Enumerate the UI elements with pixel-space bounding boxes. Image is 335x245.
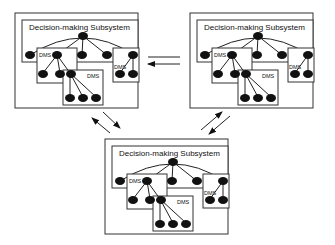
panel-bottom: Decision-making Subsystem DMS DMS DMS bbox=[105, 139, 229, 234]
dms-label: DMS bbox=[289, 64, 302, 70]
panel-top-left: Decision-making Subsystem DMS DMS DMS bbox=[15, 13, 139, 108]
panel-top-right: Decision-making Subsystem DMS DMS DMS bbox=[190, 13, 314, 108]
dms-label: DMS bbox=[177, 199, 190, 205]
dms-label: DMS bbox=[262, 73, 275, 79]
arrow-down-right-icon bbox=[103, 112, 120, 128]
panel-title: Decision-making Subsystem bbox=[204, 23, 305, 32]
arrow-down-left-icon bbox=[209, 116, 230, 134]
distributed-decision-diagram: Decision-making Subsystem DMS DMS DMS De… bbox=[0, 0, 335, 245]
dms-label: DMS bbox=[87, 73, 100, 79]
dms-label: DMS bbox=[204, 190, 217, 196]
dms-label: DMS bbox=[214, 52, 227, 58]
dms-label: DMS bbox=[114, 64, 127, 70]
connection-top-right-bottom bbox=[201, 112, 230, 134]
dms-label: DMS bbox=[39, 52, 52, 58]
panel-title: Decision-making Subsystem bbox=[29, 23, 130, 32]
connection-top-left-bottom bbox=[92, 112, 120, 133]
arrow-up-left-icon bbox=[92, 118, 110, 133]
connection-top-left-top-right bbox=[148, 57, 180, 64]
panel-title: Decision-making Subsystem bbox=[119, 149, 220, 158]
dms-label: DMS bbox=[129, 178, 142, 184]
arrow-up-right-icon bbox=[201, 112, 222, 130]
